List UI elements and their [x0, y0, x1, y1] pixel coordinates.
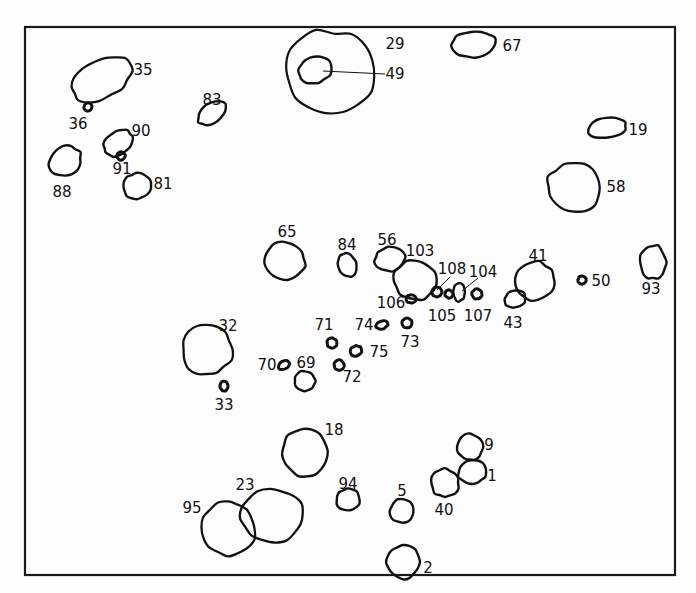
blob-label-84: 84	[337, 238, 356, 253]
blob-outline-35	[72, 57, 133, 102]
blob-outline-43	[505, 291, 525, 308]
blob-outline-58	[547, 163, 600, 212]
blob-outline-74	[376, 321, 388, 330]
blob-label-33: 33	[214, 398, 233, 413]
blob-label-106: 106	[377, 296, 406, 311]
blob-outline-104	[453, 283, 465, 302]
blob-label-72: 72	[342, 370, 361, 385]
blob-outline-107	[472, 289, 482, 299]
blob-label-67: 67	[502, 39, 521, 54]
blob-label-1: 1	[487, 469, 497, 484]
blob-shapes-group	[49, 30, 667, 580]
blob-label-83: 83	[202, 93, 221, 108]
blob-outline-40	[431, 468, 459, 497]
blob-outline-5	[390, 499, 414, 523]
blob-label-19: 19	[628, 123, 647, 138]
blob-label-91: 91	[112, 162, 131, 177]
blob-outline-70	[278, 360, 289, 369]
blob-outline-75	[350, 346, 361, 357]
blob-outline-19	[588, 117, 626, 137]
blob-label-40: 40	[434, 503, 453, 518]
blob-label-70: 70	[257, 358, 276, 373]
blob-outline-33	[220, 381, 228, 391]
leader-lines-group	[323, 71, 478, 291]
blob-outline-73	[402, 318, 412, 328]
blob-label-56: 56	[377, 233, 396, 248]
blob-outline-18	[282, 429, 328, 477]
blob-outline-36	[84, 103, 92, 111]
blob-label-90: 90	[131, 124, 150, 139]
blob-outline-56	[374, 247, 405, 272]
blob-outline-88	[49, 145, 81, 175]
blob-label-49: 49	[385, 67, 404, 82]
blob-label-36: 36	[68, 117, 87, 132]
blob-label-35: 35	[133, 63, 152, 78]
blob-label-58: 58	[606, 180, 625, 195]
blob-label-5: 5	[397, 484, 407, 499]
blob-label-2: 2	[423, 561, 433, 576]
blob-label-108: 108	[438, 262, 467, 277]
blob-outline-71	[327, 338, 337, 348]
blob-label-103: 103	[406, 244, 435, 259]
blob-outline-41	[515, 261, 555, 301]
blob-label-65: 65	[277, 225, 296, 240]
blob-label-73: 73	[400, 335, 419, 350]
blob-outline-93	[640, 245, 667, 279]
blob-label-71: 71	[314, 318, 333, 333]
blob-label-88: 88	[52, 185, 71, 200]
blob-label-69: 69	[296, 356, 315, 371]
blob-outline-1	[458, 460, 486, 484]
blob-label-18: 18	[324, 423, 343, 438]
blob-outline-105	[445, 290, 453, 298]
blob-outline-67	[451, 32, 496, 58]
blob-label-95: 95	[182, 501, 201, 516]
blob-outline-69	[295, 371, 316, 391]
blob-label-105: 105	[428, 309, 457, 324]
blob-label-94: 94	[338, 477, 357, 492]
blob-label-93: 93	[641, 282, 660, 297]
blob-label-81: 81	[153, 177, 172, 192]
blob-label-74: 74	[354, 318, 373, 333]
blob-label-104: 104	[469, 265, 498, 280]
blob-outline-canvas	[0, 0, 696, 593]
blob-label-50: 50	[591, 274, 610, 289]
blob-label-43: 43	[503, 316, 522, 331]
blob-outline-49	[298, 56, 331, 83]
blob-label-32: 32	[218, 319, 237, 334]
blob-label-41: 41	[528, 249, 547, 264]
blob-outline-50	[578, 276, 586, 284]
blob-outline-9	[457, 433, 483, 459]
leader-line-108	[437, 277, 450, 290]
blob-label-9: 9	[484, 438, 494, 453]
blob-label-23: 23	[235, 478, 254, 493]
blob-label-29: 29	[385, 37, 404, 52]
blob-label-75: 75	[369, 345, 388, 360]
figure-root: 3536909188818329496719586584561031061081…	[0, 0, 696, 593]
blob-label-107: 107	[464, 309, 493, 324]
blob-outline-65	[264, 242, 305, 280]
blob-outline-84	[338, 253, 357, 277]
